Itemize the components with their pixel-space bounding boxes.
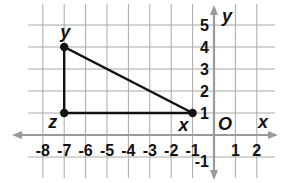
vertex-label-y: y (59, 22, 71, 42)
x-axis-arrow-left-icon (12, 131, 22, 139)
x-tick-label: -3 (143, 142, 157, 159)
y-tick-label: 4 (200, 39, 209, 56)
y-tick-label: 2 (200, 83, 209, 100)
point-x (188, 109, 196, 117)
coordinate-plane: yzx-8-7-6-5-4-3-2-11254321-1yxO (0, 0, 281, 183)
x-tick-label: -7 (57, 142, 71, 159)
y-tick-label: 1 (200, 105, 209, 122)
x-tick-label: 2 (252, 142, 261, 159)
x-tick-label: -4 (121, 142, 135, 159)
point-z (60, 109, 68, 117)
x-tick-label: -8 (36, 142, 50, 159)
vertex-label-x: x (178, 115, 190, 135)
y-axis-arrow-up-icon (210, 5, 218, 15)
y-axis-label: y (221, 6, 233, 26)
x-axis-label: x (257, 112, 269, 132)
vertex-label-z: z (47, 112, 57, 132)
tick-labels: yzx-8-7-6-5-4-3-2-11254321-1yxO (36, 6, 269, 170)
x-tick-label: 1 (231, 142, 240, 159)
x-tick-label: -6 (78, 142, 92, 159)
origin-label: O (218, 114, 232, 134)
y-tick-label: 3 (200, 61, 209, 78)
y-tick-label: -1 (195, 153, 209, 170)
y-axis-arrow-down-icon (210, 170, 218, 180)
x-tick-label: -5 (100, 142, 114, 159)
x-tick-label: -2 (164, 142, 178, 159)
y-tick-label: 5 (200, 17, 209, 34)
x-axis-arrow-right-icon (268, 131, 278, 139)
point-y (60, 43, 68, 51)
